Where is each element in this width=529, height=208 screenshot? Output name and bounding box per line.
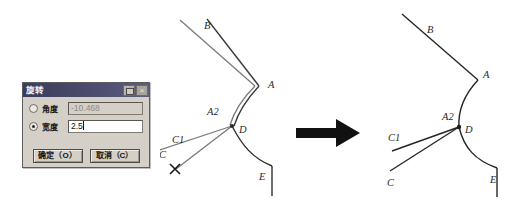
- label-c1: C1: [172, 134, 184, 145]
- width-input[interactable]: 2.5: [68, 120, 143, 133]
- angle-field-row[interactable]: 角度 -10.468: [29, 101, 143, 116]
- dialog-title: 旋转: [26, 83, 122, 97]
- dialog-titlebar[interactable]: 旋转 ×: [23, 83, 149, 97]
- x-marker: [170, 164, 180, 174]
- arc-d-e: [232, 126, 272, 166]
- dialog-body: 角度 -10.468 宽度 2.5 确定（O） 取消（C）: [23, 97, 149, 167]
- ok-button[interactable]: 确定（O）: [33, 149, 83, 163]
- label-c1: C1: [388, 132, 400, 143]
- ghost-segment-b-a: [180, 20, 255, 86]
- arc-a-d: [459, 80, 478, 127]
- segment-c-d: [176, 126, 232, 169]
- segment-b-a: [207, 19, 259, 86]
- transform-arrow: [296, 118, 362, 148]
- label-b: B: [427, 24, 434, 35]
- width-input-value: 2.5: [71, 121, 83, 131]
- close-window-button[interactable]: ×: [136, 85, 148, 96]
- angle-radio[interactable]: [29, 104, 38, 113]
- label-a: A: [482, 69, 490, 80]
- screenshot-canvas: B A A2 D C1 C E: [0, 0, 529, 208]
- label-a2: A2: [441, 111, 454, 122]
- label-e: E: [258, 171, 266, 182]
- label-a: A: [267, 79, 275, 90]
- restore-window-button[interactable]: [123, 85, 135, 96]
- ghost-arc-a-d: [230, 86, 255, 125]
- angle-label: 角度: [42, 103, 68, 114]
- diagram-before: B A A2 D C1 C E: [160, 0, 310, 208]
- angle-input[interactable]: -10.468: [68, 102, 143, 115]
- width-radio[interactable]: [29, 122, 38, 131]
- arrow-glyph: [296, 119, 360, 147]
- label-b: B: [204, 20, 211, 31]
- segment-b-a: [402, 14, 478, 80]
- restore-icon: [126, 88, 134, 95]
- segment-c-d: [390, 127, 459, 171]
- label-d: D: [464, 124, 473, 135]
- segment-c1-d: [160, 126, 232, 150]
- label-d: D: [238, 124, 247, 135]
- diagram-after: B A A2 D C1 C E: [380, 0, 529, 208]
- text-caret: [83, 121, 84, 130]
- label-a2: A2: [206, 106, 219, 117]
- cancel-button[interactable]: 取消（C）: [90, 149, 140, 163]
- label-c: C: [387, 177, 395, 188]
- label-c: C: [160, 149, 167, 160]
- rotate-dialog[interactable]: 旋转 × 角度 -10.468 宽度 2.5 确定（O） 取消（C）: [22, 82, 150, 168]
- arc-a-d: [234, 86, 259, 126]
- width-label: 宽度: [42, 121, 68, 132]
- node-d: [230, 124, 234, 128]
- segment-c1-d: [392, 127, 459, 151]
- node-d: [457, 125, 461, 129]
- width-field-row[interactable]: 宽度 2.5: [29, 119, 143, 134]
- dialog-buttons: 确定（O） 取消（C）: [23, 149, 149, 163]
- close-icon: ×: [137, 86, 147, 95]
- label-e: E: [489, 174, 497, 185]
